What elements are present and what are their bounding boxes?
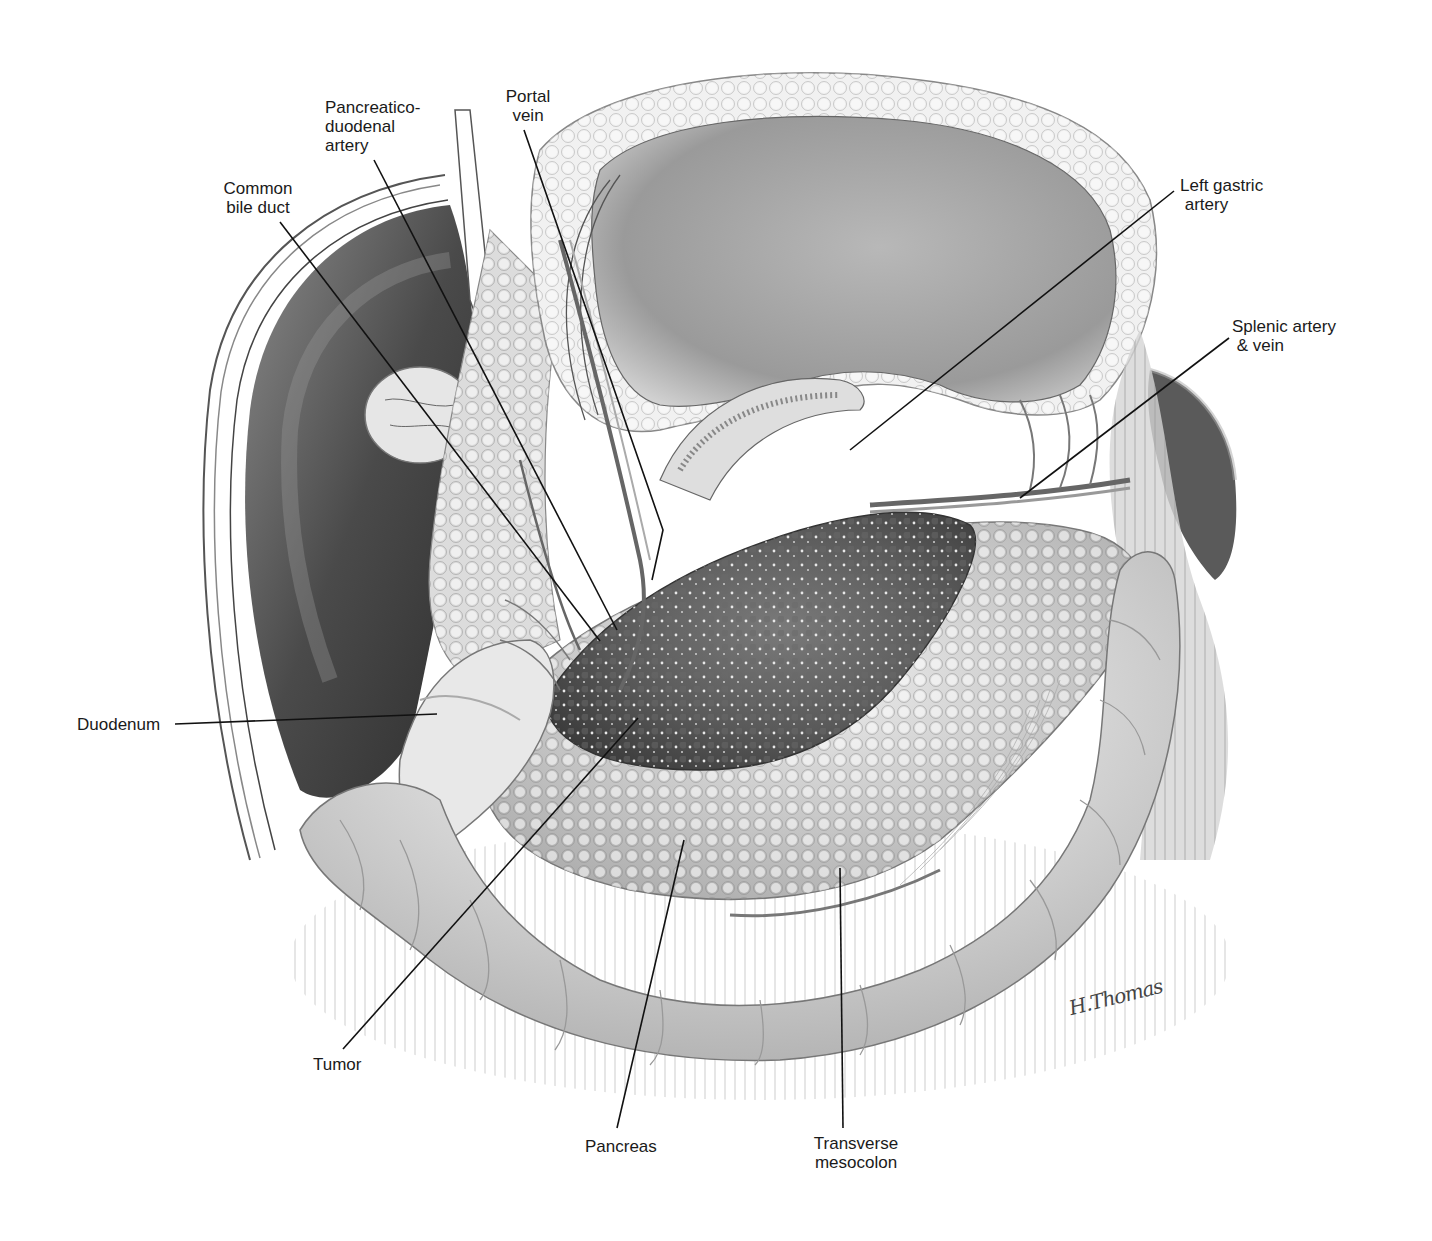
- label-duodenum: Duodenum: [77, 715, 173, 734]
- label-portal-vein: Portal vein: [498, 87, 558, 125]
- splenic-vessels: [870, 395, 1130, 512]
- label-common-bile-duct: Common bile duct: [215, 179, 301, 217]
- label-transverse-mesocolon: Transverse mesocolon: [797, 1134, 915, 1172]
- stomach: [531, 73, 1156, 432]
- label-splenic-artery-vein: Splenic artery & vein: [1232, 317, 1358, 355]
- label-left-gastric-artery: Left gastric artery: [1180, 176, 1290, 214]
- label-pancreas: Pancreas: [585, 1137, 675, 1156]
- label-tumor: Tumor: [313, 1055, 373, 1074]
- label-pancreaticoduodenal-artery: Pancreatico- duodenal artery: [325, 98, 435, 155]
